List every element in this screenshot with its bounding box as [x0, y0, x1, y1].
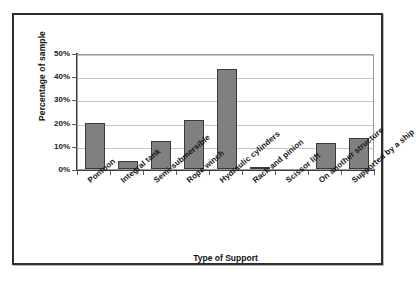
y-axis-tick-label: 30% — [44, 96, 70, 104]
y-axis-tick-label: 20% — [44, 120, 70, 128]
y-axis-tick — [72, 147, 77, 148]
y-axis-tick — [72, 54, 77, 55]
x-axis-tick — [110, 171, 111, 175]
x-axis-tick — [77, 171, 78, 175]
bar-series — [78, 55, 373, 169]
x-axis-title: Type of Support — [77, 253, 374, 263]
plot-area — [77, 54, 374, 170]
x-axis-tick — [341, 171, 342, 175]
bar-slot — [111, 55, 144, 169]
y-axis-tick — [72, 170, 77, 171]
x-axis-tick — [308, 171, 309, 175]
bar-slot — [78, 55, 111, 169]
bar[interactable] — [85, 123, 105, 169]
x-axis-tick — [275, 171, 276, 175]
y-axis-tick — [72, 100, 77, 101]
y-axis-tick-label: 50% — [44, 50, 70, 58]
x-axis-tick — [143, 171, 144, 175]
y-axis-tick-label: 40% — [44, 73, 70, 81]
x-axis-tick — [209, 171, 210, 175]
y-axis-tick-label: 0% — [44, 166, 70, 174]
y-axis-tick-labels: 0%10%20%30%40%50% — [42, 15, 70, 282]
y-axis-tick-label: 10% — [44, 143, 70, 151]
x-axis-tick — [374, 171, 375, 175]
x-axis-tick — [242, 171, 243, 175]
y-axis-tick — [72, 77, 77, 78]
chart-figure-frame: Percentage of sample 0%10%20%30%40%50% P… — [12, 13, 383, 265]
x-axis-tick — [176, 171, 177, 175]
y-axis-tick — [72, 124, 77, 125]
